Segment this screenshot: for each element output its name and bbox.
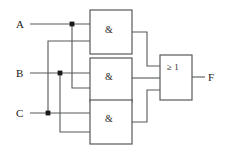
junction-dot-c — [46, 111, 51, 116]
or-gate-label: ≥ 1 — [167, 63, 179, 72]
junction-dot-a — [70, 22, 75, 27]
input-label-a: A — [16, 19, 24, 30]
input-label-c: C — [16, 108, 23, 119]
wire-and3-to-or — [132, 90, 160, 122]
and-gate-2-label: & — [105, 72, 113, 82]
circuit-canvas — [0, 0, 229, 160]
and-gate-3-label: & — [105, 114, 113, 124]
junction-dot-b — [58, 71, 63, 76]
and-gate-1-label: & — [105, 25, 113, 35]
wire-b-to-and3 — [60, 73, 90, 132]
wire-and1-to-or — [132, 32, 160, 66]
wire-c-to-and1 — [48, 41, 90, 113]
wire-a-to-and2 — [72, 24, 90, 88]
input-label-b: B — [16, 68, 23, 79]
logic-circuit-diagram: A B C F & & & ≥ 1 — [0, 0, 229, 160]
output-label-f: F — [208, 72, 214, 83]
